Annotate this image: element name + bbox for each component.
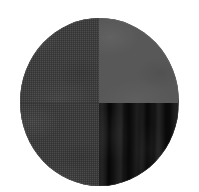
quadrant-bottom-right-fill	[99, 103, 179, 186]
image-canvas	[0, 0, 199, 192]
quadrant-top-right	[99, 18, 179, 103]
quadrant-top-left	[20, 18, 99, 103]
quadrant-top-left-fill	[20, 18, 99, 103]
quadrant-bottom-right	[99, 103, 179, 186]
quadrant-circle-swatch	[20, 18, 179, 186]
quadrant-bottom-left-fill	[20, 103, 99, 186]
quadrant-top-right-fill	[99, 18, 179, 103]
quadrant-bottom-left	[20, 103, 99, 186]
